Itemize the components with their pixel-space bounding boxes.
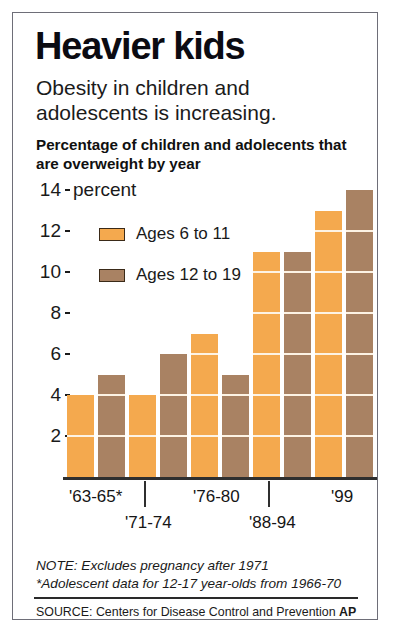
bar-segment-line xyxy=(315,353,342,355)
bar-segment-line xyxy=(253,353,280,355)
x-axis-label-1: '63-65* xyxy=(69,487,122,507)
bar-segment-line xyxy=(222,435,249,437)
y-axis-label-4: 4 xyxy=(27,384,61,406)
bar-segment-line xyxy=(284,271,311,273)
y-axis-tick-8 xyxy=(65,312,70,314)
bar-segment-line xyxy=(98,394,125,396)
bar-segment-line xyxy=(191,394,218,396)
bar-4-series-2 xyxy=(284,252,311,478)
x-axis-leader-line xyxy=(268,481,270,507)
x-axis-label-3: '76-80 xyxy=(193,487,240,507)
bar-segment-line xyxy=(284,435,311,437)
bar-segment-line xyxy=(346,230,373,232)
bar-segment-line xyxy=(253,312,280,314)
bar-2-series-2 xyxy=(160,354,187,477)
bar-segment-line xyxy=(253,271,280,273)
bar-segment-line xyxy=(191,353,218,355)
bar-segment-line xyxy=(222,394,249,396)
bar-segment-line xyxy=(315,435,342,437)
bar-segment-line xyxy=(67,435,94,437)
bar-segment-line xyxy=(129,435,156,437)
bar-segment-line xyxy=(284,394,311,396)
bar-segment-line xyxy=(346,312,373,314)
bar-segment-line xyxy=(346,271,373,273)
y-axis-label-12: 12 xyxy=(27,220,61,242)
y-axis-tick-12 xyxy=(65,230,70,232)
x-axis-label-2: '71-74 xyxy=(125,513,172,533)
y-axis-tick-10 xyxy=(65,271,70,273)
bar-segment-line xyxy=(315,312,342,314)
x-axis-baseline-1 xyxy=(63,477,129,480)
bar-1-series-2 xyxy=(98,375,125,478)
bar-4-series-1 xyxy=(253,252,280,478)
x-axis-baseline-3 xyxy=(187,477,253,480)
y-axis-label-14: 14 xyxy=(27,179,61,201)
bar-chart: 2468101214percentAges 6 to 11Ages 12 to … xyxy=(13,13,379,621)
source-line: SOURCE: Centers for Disease Control and … xyxy=(36,605,356,619)
x-axis-baseline-4 xyxy=(249,477,315,480)
x-axis-baseline-2 xyxy=(125,477,191,480)
legend-swatch-1 xyxy=(99,228,125,241)
bar-segment-line xyxy=(253,394,280,396)
bar-1-series-1 xyxy=(67,395,94,477)
ap-credit: AP xyxy=(339,605,356,619)
infographic-panel: Heavier kids Obesity in children and ado… xyxy=(12,12,378,620)
y-axis-label-2: 2 xyxy=(27,425,61,447)
bar-segment-line xyxy=(160,435,187,437)
x-axis-label-4: '88-94 xyxy=(249,513,296,533)
legend-swatch-2 xyxy=(99,269,125,282)
bar-segment-line xyxy=(315,230,342,232)
source-text: SOURCE: Centers for Disease Control and … xyxy=(36,605,336,619)
bar-segment-line xyxy=(346,394,373,396)
bar-5-series-2 xyxy=(346,190,373,477)
y-axis-label-6: 6 xyxy=(27,343,61,365)
y-axis-label-10: 10 xyxy=(27,261,61,283)
bar-3-series-2 xyxy=(222,375,249,478)
bar-segment-line xyxy=(191,435,218,437)
x-axis-label-5: '99 xyxy=(331,487,353,507)
legend-label-2: Ages 12 to 19 xyxy=(136,265,241,285)
bar-segment-line xyxy=(160,394,187,396)
y-axis-label-8: 8 xyxy=(27,302,61,324)
bar-segment-line xyxy=(284,353,311,355)
legend-label-1: Ages 6 to 11 xyxy=(136,224,230,244)
note-line-2: *Adolescent data for 12-17 year-olds fro… xyxy=(36,576,341,591)
x-axis-baseline-5 xyxy=(311,477,377,480)
bar-segment-line xyxy=(346,435,373,437)
x-axis-leader-line xyxy=(144,481,146,507)
bar-segment-line xyxy=(315,271,342,273)
bar-5-series-1 xyxy=(315,211,342,478)
bar-2-series-1 xyxy=(129,395,156,477)
y-axis-tick-14 xyxy=(65,189,70,191)
bar-segment-line xyxy=(315,394,342,396)
bar-3-series-1 xyxy=(191,334,218,478)
legend-item-2[interactable]: Ages 12 to 19 xyxy=(99,265,241,285)
bar-segment-line xyxy=(253,435,280,437)
bar-segment-line xyxy=(284,312,311,314)
footer-divider xyxy=(34,597,358,599)
y-axis-unit-label: percent xyxy=(73,179,136,201)
bar-segment-line xyxy=(98,435,125,437)
y-axis-tick-6 xyxy=(65,353,70,355)
legend-item-1[interactable]: Ages 6 to 11 xyxy=(99,224,230,244)
bar-segment-line xyxy=(346,353,373,355)
note-line-1: NOTE: Excludes pregnancy after 1971 xyxy=(36,558,269,573)
